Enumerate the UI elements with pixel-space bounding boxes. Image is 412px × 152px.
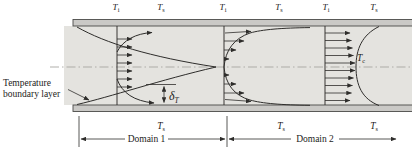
thermal-entry-flow-figure: Ti Ts Ti Ts Ti Ts Ts Ts Ts Tc δT Tempera… <box>0 0 412 152</box>
inlet-temperature-label-3: Ti <box>323 2 330 13</box>
callout-line2: boundary layer <box>3 89 61 99</box>
domain1-label: Domain 1 <box>128 134 166 144</box>
domain2-label: Domain 2 <box>296 134 334 144</box>
surface-temperature-label-top-1: Ts <box>157 2 165 13</box>
surface-temperature-label-bottom-1: Ts <box>157 121 165 132</box>
top-wall <box>73 20 412 27</box>
bottom-wall <box>73 105 412 112</box>
inlet-temperature-label-2: Ti <box>220 2 227 13</box>
surface-temperature-label-bottom-3: Ts <box>370 121 378 132</box>
surface-temperature-label-bottom-2: Ts <box>277 121 285 132</box>
surface-temperature-label-top-2: Ts <box>275 2 283 13</box>
callout-line1: Temperature <box>3 78 51 88</box>
duct-flow-diagram: Ti Ts Ti Ts Ti Ts Ts Ts Ts Tc δT Tempera… <box>0 0 412 152</box>
surface-temperature-label-top-3: Ts <box>370 2 378 13</box>
inlet-temperature-label-1: Ti <box>113 2 120 13</box>
domain-dimensions <box>79 116 396 147</box>
